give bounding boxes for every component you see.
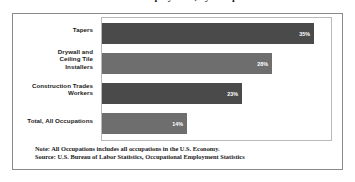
- figure-title: Percent of employment, by occupation: [0, 0, 355, 2]
- bar-tapers: 35%: [102, 23, 314, 44]
- bar-value-label: 28%: [257, 61, 268, 67]
- bar-total-all-occupations: 14%: [102, 113, 187, 134]
- category-label-total-all-occupations: Total, All Occupations: [27, 117, 93, 124]
- figure-title-strip: Percent of employment, by occupation: [0, 0, 355, 12]
- category-label-line: Total, All Occupations: [27, 117, 93, 124]
- footnote-source: Source: U.S. Bureau of Labor Statistics,…: [35, 153, 335, 161]
- category-label-line: Ceiling Tile: [60, 55, 94, 62]
- bar-value-label: 23%: [227, 91, 238, 97]
- category-label-line: Construction Trades: [32, 82, 93, 89]
- category-label-line: Drywall and: [58, 48, 93, 55]
- category-label-line: Workers: [68, 89, 93, 96]
- bar-value-label: 35%: [299, 31, 310, 37]
- figure-footnote: Note: All Occupations includes all occup…: [35, 145, 335, 161]
- plot-region: Tapers Drywall and Ceiling Tile Installe…: [13, 17, 344, 141]
- bars-layer: 35% 28% 23% 14%: [101, 17, 332, 141]
- bar-value-label: 14%: [172, 121, 183, 127]
- category-label-construction-trades-workers: Construction Trades Workers: [32, 82, 93, 97]
- bar-construction-trades-workers: 23%: [102, 83, 242, 104]
- category-label-drywall-ceiling-tile-installers: Drywall and Ceiling Tile Installers: [58, 48, 93, 70]
- category-label-line: Tapers: [73, 26, 93, 33]
- bar-drywall-ceiling-tile-installers: 28%: [102, 53, 272, 74]
- category-label-tapers: Tapers: [73, 26, 93, 33]
- category-axis-labels: Tapers Drywall and Ceiling Tile Installe…: [13, 17, 101, 141]
- footnote-note: Note: All Occupations includes all occup…: [35, 145, 335, 153]
- category-label-line: Installers: [65, 63, 93, 70]
- figure-frame: Tapers Drywall and Ceiling Tile Installe…: [12, 13, 343, 170]
